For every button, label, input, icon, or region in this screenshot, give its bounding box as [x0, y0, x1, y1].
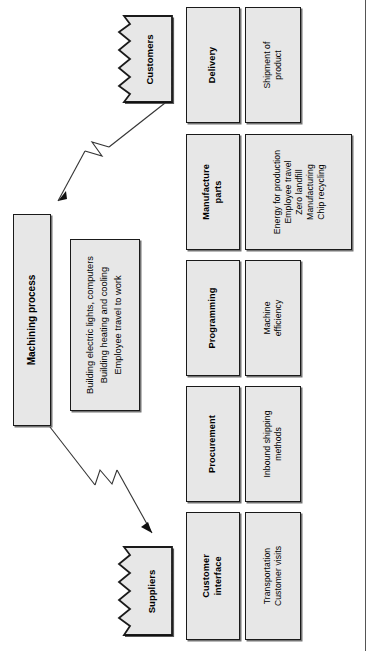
procurement-detail-1: Inbound shipping [262, 410, 273, 477]
diagram-canvas: Customers Machining process Building ele… [0, 0, 375, 651]
stage-header-customer-interface-label: Customer interface [201, 554, 225, 598]
stage-header-manufacture-parts-label: Manufacture parts [201, 164, 225, 220]
delivery-detail-1: Shipment of [262, 42, 273, 89]
endpoint-banner-customers: Customers [114, 14, 174, 104]
programming-detail-2: efficiency [273, 300, 284, 337]
customers-banner-shape [114, 14, 174, 104]
machining-detail-line-2: Building heating and cooling [98, 256, 112, 394]
connector-process-to-suppliers [40, 423, 170, 558]
stage-details-procurement-text: Inbound shipping methods [262, 410, 284, 477]
stage-details-programming[interactable]: Machine efficiency [245, 260, 301, 376]
customer-interface-header-line-2: interface [213, 554, 225, 598]
stage-header-customer-interface[interactable]: Customer interface [186, 512, 240, 640]
manufacture-detail-5: Chip recycling [315, 150, 326, 234]
stage-header-delivery[interactable]: Delivery [186, 7, 240, 123]
stage-details-delivery-text: Shipment of product [262, 42, 284, 89]
stage-header-manufacture-parts[interactable]: Manufacture parts [186, 134, 240, 250]
machining-detail-line-1: Building electric lights, computers [84, 256, 98, 394]
programming-detail-1: Machine [262, 300, 273, 337]
customer-interface-detail-2: Customer visits [273, 546, 284, 606]
customer-interface-detail-1: Transportation [262, 546, 273, 606]
machining-process-box[interactable]: Machining process [13, 214, 51, 426]
connector-process-to-customers [45, 95, 175, 220]
stage-header-procurement[interactable]: Procurement [186, 386, 240, 502]
machining-process-detail-text: Building electric lights, computers Buil… [84, 256, 126, 394]
machining-process-detail-box[interactable]: Building electric lights, computers Buil… [70, 239, 140, 411]
stage-details-procurement[interactable]: Inbound shipping methods [245, 386, 301, 502]
manufacture-parts-header-line-1: Manufacture [201, 164, 213, 220]
stage-details-manufacture-parts[interactable]: Energy for production Employee travel Ze… [245, 134, 352, 250]
stage-header-programming-label: Programming [207, 288, 219, 349]
manufacture-detail-3: Zero landfill [293, 150, 304, 234]
stage-details-delivery[interactable]: Shipment of product [245, 7, 301, 123]
page-rule-divider [365, 0, 366, 651]
manufacture-parts-header-line-2: parts [213, 164, 225, 220]
machining-process-label: Machining process [26, 275, 39, 366]
stage-details-manufacture-parts-text: Energy for production Employee travel Ze… [271, 150, 326, 234]
stage-details-programming-text: Machine efficiency [262, 300, 284, 337]
stage-header-delivery-label: Delivery [207, 47, 219, 84]
stage-header-programming[interactable]: Programming [186, 260, 240, 376]
suppliers-banner-shape [114, 545, 174, 637]
stage-details-customer-interface[interactable]: Transportation Customer visits [245, 512, 301, 640]
machining-detail-line-3: Employee travel to work [112, 256, 126, 394]
delivery-detail-2: product [273, 42, 284, 89]
stage-details-customer-interface-text: Transportation Customer visits [262, 546, 284, 606]
manufacture-detail-1: Energy for production [271, 150, 282, 234]
procurement-detail-2: methods [273, 410, 284, 477]
stage-header-procurement-label: Procurement [207, 415, 219, 473]
endpoint-banner-suppliers: Suppliers [114, 545, 174, 637]
customer-interface-header-line-1: Customer [201, 554, 213, 598]
manufacture-detail-4: Manufacturing [304, 150, 315, 234]
manufacture-detail-2: Employee travel [282, 150, 293, 234]
